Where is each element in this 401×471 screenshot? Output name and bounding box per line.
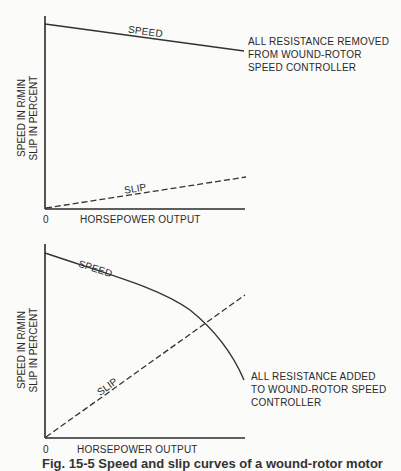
bottom-speed-curve: [45, 253, 244, 380]
bottom-origin-label: 0: [43, 443, 49, 456]
bottom-y-axis-label: SPEED IN R/MIN SLIP IN PERCENT: [16, 300, 40, 400]
bottom-note-line3: CONTROLLER: [251, 396, 386, 409]
bottom-note-line2: TO WOUND-ROTOR SPEED: [251, 383, 386, 396]
top-ylabel-line1: SPEED IN R/MIN: [16, 68, 28, 168]
bottom-x-axis-label: HORSEPOWER OUTPUT: [77, 443, 198, 456]
bottom-chart: [45, 244, 245, 438]
top-note-line3: SPEED CONTROLLER: [248, 61, 389, 74]
top-ylabel-line2: SLIP IN PERCENT: [28, 68, 40, 168]
bottom-annotation: ALL RESISTANCE ADDED TO WOUND-ROTOR SPEE…: [251, 370, 386, 409]
bottom-note-line1: ALL RESISTANCE ADDED: [251, 370, 386, 383]
bottom-slip-curve: [46, 295, 245, 437]
figure-caption: Fig. 15-5 Speed and slip curves of a wou…: [42, 456, 383, 471]
top-chart: [45, 16, 246, 209]
bottom-ylabel-line2: SLIP IN PERCENT: [28, 300, 40, 400]
top-y-axis-label: SPEED IN R/MIN SLIP IN PERCENT: [16, 68, 40, 168]
top-origin-label: 0: [43, 213, 49, 226]
top-note-line1: ALL RESISTANCE REMOVED: [248, 35, 389, 48]
bottom-ylabel-line1: SPEED IN R/MIN: [16, 300, 28, 400]
top-annotation: ALL RESISTANCE REMOVED FROM WOUND-ROTOR …: [248, 35, 389, 74]
top-note-line2: FROM WOUND-ROTOR: [248, 48, 389, 61]
top-x-axis-label: HORSEPOWER OUTPUT: [80, 213, 201, 226]
